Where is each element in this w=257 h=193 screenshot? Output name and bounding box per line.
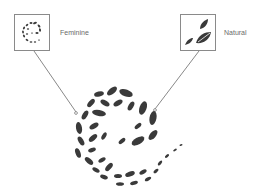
leaf-spiral-logo	[0, 0, 257, 193]
